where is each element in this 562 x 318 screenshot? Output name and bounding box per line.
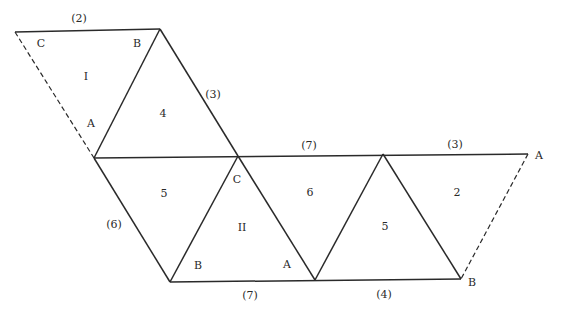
edge-label-3-left: (3)	[205, 89, 221, 100]
face-label-4: 4	[160, 108, 167, 119]
face-label-ii: II	[238, 222, 247, 233]
edge-label-6: (6)	[106, 219, 122, 230]
face-label-2: 2	[454, 187, 461, 198]
vertex-label-b-bottom: B	[194, 260, 202, 271]
edge-label-2: (2)	[71, 13, 87, 24]
vertex-label-c-center: C	[233, 174, 241, 185]
polyhedron-net-diagram: (2) C B I A 4 (3) (7) (3) A 5 C 6 II 5 2…	[0, 0, 562, 318]
net-lines	[0, 0, 562, 318]
face-label-6: 6	[307, 187, 314, 198]
edge-inner-5-2	[383, 154, 461, 279]
face-label-i: I	[84, 71, 88, 82]
vertex-label-b-right: B	[468, 277, 476, 288]
vertex-label-a-left: A	[87, 118, 95, 129]
edge-label-3-right: (3)	[447, 139, 463, 150]
vertex-label-a-right: A	[535, 150, 543, 161]
edge-label-7-top: (7)	[301, 140, 317, 151]
edge-middle-horizontal	[94, 154, 528, 158]
edge-inner-ca	[238, 156, 315, 280]
edge-3-left	[160, 29, 238, 156]
dashed-edge-right	[461, 154, 528, 279]
edge-inner-ba	[94, 29, 160, 158]
edge-inner-cb	[170, 156, 238, 282]
face-label-5-right: 5	[382, 221, 389, 232]
edge-inner-6-5	[315, 154, 383, 280]
dashed-edge-left	[15, 32, 94, 158]
face-label-5-left: 5	[161, 188, 168, 199]
edge-label-7-bottom: (7)	[242, 290, 258, 301]
edge-top-2	[15, 29, 160, 32]
vertex-label-a-bottom: A	[283, 259, 291, 270]
vertex-label-c-top: C	[37, 38, 45, 49]
edge-label-4: (4)	[376, 289, 392, 300]
vertex-label-b-top: B	[133, 38, 141, 49]
